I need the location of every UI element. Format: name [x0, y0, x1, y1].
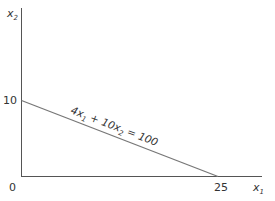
y-tick-10: 10: [3, 94, 17, 107]
x-axis-label: x1: [252, 181, 264, 196]
origin-label: 0: [9, 181, 16, 194]
svg-text:4x1 + 10x2 = 100: 4x1 + 10x2 = 100: [68, 104, 160, 151]
y-axis-label: x2: [6, 7, 19, 22]
chart: x2 10 0 25 x1 4x1 + 10x2 = 100: [0, 0, 275, 201]
equation-annotation: 4x1 + 10x2 = 100: [68, 104, 160, 151]
x-tick-25: 25: [214, 181, 228, 194]
constraint-line: [22, 101, 219, 177]
